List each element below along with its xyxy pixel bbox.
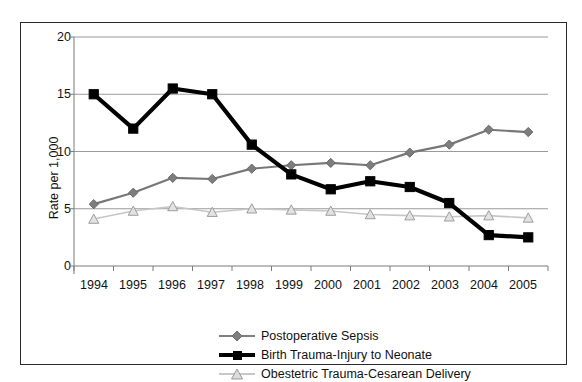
data-point — [405, 182, 414, 191]
data-point — [247, 164, 256, 173]
data-point — [326, 158, 335, 167]
data-point — [405, 148, 414, 157]
series-triangle — [89, 201, 534, 223]
data-point — [89, 200, 98, 209]
legend: Postoperative Sepsis Birth Trauma-Injury… — [217, 326, 517, 382]
data-point — [129, 124, 138, 133]
legend-item-birth-trauma[interactable]: Birth Trauma-Injury to Neonate — [217, 345, 517, 364]
square-marker-icon — [217, 347, 257, 363]
data-point — [524, 127, 533, 136]
data-point — [445, 140, 454, 149]
series-layer — [89, 84, 534, 242]
data-point — [89, 90, 98, 99]
series-line — [94, 130, 529, 204]
data-point — [326, 185, 335, 194]
data-point — [247, 140, 256, 149]
chart-figure: Rate per 1,000 20 15 10 5 0 1994 1995 19… — [0, 0, 582, 382]
series-square — [89, 84, 533, 242]
data-point — [208, 90, 217, 99]
data-point — [287, 161, 296, 170]
data-point — [168, 173, 177, 182]
legend-item-obstetric-trauma[interactable]: Obestetric Trauma-Cesarean Delivery — [217, 364, 517, 382]
data-point — [484, 125, 493, 134]
data-point — [129, 188, 138, 197]
data-point — [208, 174, 217, 183]
series-diamond — [89, 125, 533, 209]
axis-lines — [69, 37, 548, 274]
data-point — [168, 84, 177, 93]
data-point — [445, 198, 454, 207]
legend-item-postoperative-sepsis[interactable]: Postoperative Sepsis — [217, 326, 517, 345]
data-point — [524, 233, 533, 242]
plot-area — [21, 23, 566, 364]
data-point — [366, 161, 375, 170]
series-line — [94, 89, 529, 238]
data-point — [484, 230, 493, 239]
legend-label-postoperative-sepsis: Postoperative Sepsis — [257, 329, 378, 343]
chart-frame: Rate per 1,000 20 15 10 5 0 1994 1995 19… — [20, 22, 567, 365]
legend-label-obstetric-trauma: Obestetric Trauma-Cesarean Delivery — [257, 367, 471, 381]
legend-label-birth-trauma: Birth Trauma-Injury to Neonate — [257, 348, 432, 362]
data-point — [287, 170, 296, 179]
diamond-marker-icon — [217, 328, 257, 344]
data-point — [366, 177, 375, 186]
triangle-marker-icon — [217, 366, 257, 382]
gridlines — [74, 37, 548, 266]
